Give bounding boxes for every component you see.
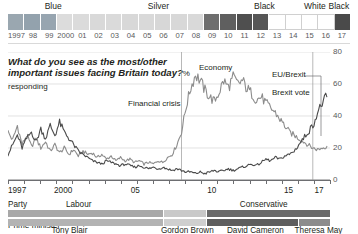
band-year-05: 05 bbox=[139, 30, 155, 42]
band-cell-07 bbox=[171, 14, 187, 30]
x-axis: 1997200005101517 bbox=[8, 180, 330, 198]
x-label-05: 05 bbox=[131, 186, 140, 195]
band-cell-13 bbox=[269, 14, 285, 30]
y-tick-40: 40 bbox=[333, 111, 342, 120]
band-cell-15 bbox=[302, 14, 318, 30]
band-year-04: 04 bbox=[123, 30, 139, 42]
band-cell-11 bbox=[237, 14, 253, 30]
x-tick-12 bbox=[201, 180, 202, 184]
band-cell-row bbox=[8, 14, 350, 30]
band-cell-16 bbox=[318, 14, 334, 30]
pm-label-tony-blair: Tony Blair bbox=[51, 226, 87, 234]
pm-segment-gordon-brown bbox=[164, 219, 207, 226]
annotation-eu-brexit: EU/Brexit bbox=[272, 70, 306, 79]
band-label-blue-0: Blue bbox=[22, 1, 84, 11]
x-label-17: 17 bbox=[315, 186, 324, 195]
band-cell-02 bbox=[90, 14, 106, 30]
x-tick-0 bbox=[8, 180, 9, 184]
x-label-10: 10 bbox=[207, 186, 216, 195]
band-cell-03 bbox=[106, 14, 122, 30]
band-cell-04 bbox=[122, 14, 138, 30]
band-year-03: 03 bbox=[107, 30, 123, 42]
party-row-label: Party bbox=[8, 200, 27, 209]
pm-band bbox=[8, 219, 330, 226]
band-year-02: 02 bbox=[90, 30, 106, 42]
x-tick-18 bbox=[298, 180, 299, 184]
pm-segment-theresa-may bbox=[299, 219, 330, 226]
y-tick-0: 0 bbox=[333, 175, 337, 184]
annotation-brexit-vote: Brexit vote bbox=[272, 88, 310, 97]
band-year-16: 16 bbox=[318, 30, 334, 42]
band-year-09: 09 bbox=[204, 30, 220, 42]
party-label-labour: Labour bbox=[66, 200, 92, 209]
x-tick-17 bbox=[282, 180, 283, 184]
x-tick-5 bbox=[89, 180, 90, 184]
x-label-1997: 1997 bbox=[8, 186, 26, 195]
y-tick-80: 80 bbox=[333, 47, 342, 56]
band-year-15: 15 bbox=[301, 30, 317, 42]
x-tick-20 bbox=[330, 180, 331, 184]
band-cell-05 bbox=[139, 14, 155, 30]
band-cell-98 bbox=[24, 14, 40, 30]
series-line-economy bbox=[8, 72, 327, 165]
pm-segment-tony-blair bbox=[8, 219, 164, 226]
band-cell-99 bbox=[41, 14, 57, 30]
top-colour-band: BlueSilverBlackWhiteBlack 19979899200001… bbox=[8, 0, 350, 42]
band-year-11: 11 bbox=[236, 30, 252, 42]
chart-page: BlueSilverBlackWhiteBlack 19979899200001… bbox=[0, 0, 358, 234]
band-cell-14 bbox=[286, 14, 302, 30]
band-year-06: 06 bbox=[155, 30, 171, 42]
party-label-conservative: Conservative bbox=[240, 200, 288, 209]
band-year-2000: 2000 bbox=[57, 30, 74, 42]
x-tick-15 bbox=[250, 180, 251, 184]
band-year-row: 1997989920000102030405060708091011121314… bbox=[8, 30, 350, 42]
band-divider-rule bbox=[8, 43, 350, 44]
pm-label-david-cameron: David Cameron bbox=[227, 226, 284, 234]
band-cell-1997 bbox=[8, 14, 24, 30]
x-tick-8 bbox=[137, 180, 138, 184]
band-cell-08 bbox=[188, 14, 204, 30]
band-year-13: 13 bbox=[269, 30, 285, 42]
band-label-row: BlueSilverBlackWhiteBlack bbox=[8, 0, 350, 14]
band-year-01: 01 bbox=[74, 30, 90, 42]
band-cell-2000 bbox=[57, 14, 73, 30]
band-label-black-2: Black bbox=[232, 1, 297, 11]
band-cell-06 bbox=[155, 14, 171, 30]
x-label-15: 15 bbox=[284, 186, 293, 195]
band-cell-01 bbox=[73, 14, 89, 30]
x-tick-1 bbox=[24, 180, 25, 184]
y-tick-60: 60 bbox=[333, 79, 342, 88]
x-label-2000: 2000 bbox=[54, 186, 72, 195]
x-tick-16 bbox=[266, 180, 267, 184]
band-cell-12 bbox=[253, 14, 269, 30]
band-label-silver-1: Silver bbox=[85, 1, 232, 11]
band-year-17: 17 bbox=[334, 30, 350, 42]
x-tick-13 bbox=[217, 180, 218, 184]
annotation-financial-crisis: Financial crisis bbox=[128, 99, 180, 108]
x-tick-9 bbox=[153, 180, 154, 184]
pm-label-theresa-may: Theresa May bbox=[295, 226, 343, 234]
pm-segment-david-cameron bbox=[207, 219, 299, 226]
band-cell-17 bbox=[335, 14, 350, 30]
x-tick-14 bbox=[233, 180, 234, 184]
band-year-1997: 1997 bbox=[8, 30, 25, 42]
x-tick-3 bbox=[56, 180, 57, 184]
y-axis: 020406080 bbox=[333, 52, 357, 180]
annotation-economy: Economy bbox=[199, 63, 232, 72]
band-year-98: 98 bbox=[25, 30, 41, 42]
band-year-08: 08 bbox=[188, 30, 204, 42]
x-tick-4 bbox=[72, 180, 73, 184]
party-segment-labour bbox=[8, 210, 164, 217]
band-year-99: 99 bbox=[41, 30, 57, 42]
x-tick-10 bbox=[169, 180, 170, 184]
x-tick-6 bbox=[105, 180, 106, 184]
band-year-14: 14 bbox=[285, 30, 301, 42]
x-tick-7 bbox=[121, 180, 122, 184]
band-year-12: 12 bbox=[253, 30, 269, 42]
party-segment-transition bbox=[164, 210, 207, 217]
party-band bbox=[8, 210, 330, 217]
band-cell-09 bbox=[204, 14, 220, 30]
band-year-07: 07 bbox=[172, 30, 188, 42]
x-tick-19 bbox=[314, 180, 315, 184]
party-segment-conservative bbox=[207, 210, 330, 217]
